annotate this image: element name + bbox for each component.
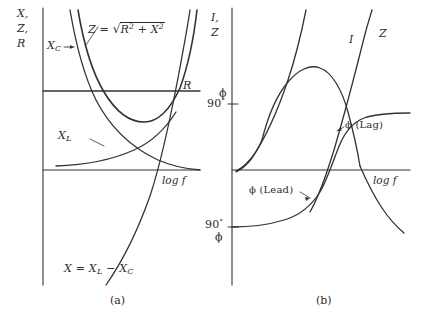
panel-a-y-axis-label: X, Z, R (17, 6, 28, 51)
panel-b-y-axis-label: I, Z (211, 10, 219, 40)
panel-a-label-XL: XL (58, 130, 72, 143)
panel-a-equation-Z-radicand: R2 + X2 (120, 22, 165, 36)
panel-a-y-axis-label-line-3: R (17, 36, 28, 51)
panel-a-equation-Z-radicand-X: X (151, 23, 159, 36)
panel-a-caption: (a) (110, 294, 125, 307)
panel-a-y-axis-label-line-2: Z, (17, 21, 28, 36)
panel-a-equation-X-net-lhs: X (64, 262, 72, 275)
panel-a-label-XL-subscript: L (66, 134, 72, 143)
panel-a-equation-Z-equals: = (100, 23, 109, 36)
panel-b-label-phi-lag: ϕ (Lag) (345, 120, 383, 131)
panel-b-tick-lower-degree-sign: ° (219, 218, 223, 226)
figure-container: X, Z, R XC XL R Z = √R2 + X2 log f X = X… (0, 0, 437, 316)
panel-b-curve-I (262, 67, 360, 166)
panel-a-label-XL-base: X (58, 129, 66, 142)
panel-b-label-phi-lead: ϕ (Lead) (249, 185, 293, 196)
panel-a-equation-Z-lhs: Z (88, 23, 96, 36)
panel-a-equation-X-net-XL-subscript: L (97, 267, 103, 276)
panel-b-tick-lower-value: 90 (205, 218, 219, 231)
panel-a-label-XC-base: X (47, 39, 55, 52)
panel-b-caption: (b) (316, 294, 332, 307)
panel-a-label-XC: XC (47, 40, 61, 53)
panel-a-y-axis-label-line-1: X, (17, 6, 28, 21)
panel-a-label-R: R (183, 80, 191, 92)
panel-a-label-XC-subscript: C (55, 44, 61, 53)
panel-b-tick-upper-label: 90° (207, 98, 225, 110)
panel-a-arrowhead-XC (70, 45, 74, 49)
panel-a-equation-Z-radicand-R: R (121, 23, 129, 36)
panel-a-equation-Z: Z = √R2 + X2 (88, 22, 165, 36)
panel-b-tick-lower-label: 90° (205, 219, 223, 231)
panel-b-tick-upper-degree-sign: ° (221, 97, 225, 105)
panel-b-tick-lower-phi-symbol: ϕ (215, 232, 223, 244)
panel-a-equation-X-net-XL: X (89, 262, 97, 275)
panel-b-label-Z: Z (379, 28, 387, 40)
panel-b-curve-Z-right (310, 10, 372, 212)
panel-a-equation-X-net: X = XL − XC (64, 263, 134, 276)
panel-a-equation-Z-radicand-plus: + (138, 23, 147, 36)
panel-b-y-axis-label-line-2: Z (211, 25, 219, 40)
panel-b-x-axis-label: log f (373, 174, 397, 186)
panel-b-tick-upper-value: 90 (207, 97, 221, 110)
panel-a-equation-Z-radicand-R-exponent: 2 (129, 22, 134, 31)
panel-a-curve-X-net (106, 10, 190, 285)
panel-a-equation-X-net-minus: − (106, 262, 115, 275)
panel-a-equation-X-net-XC-subscript: C (127, 267, 133, 276)
panel-b-curve-I-left-tail (236, 140, 262, 171)
panel-a-x-axis-label: log f (162, 174, 186, 186)
panel-a-equation-X-net-equals: = (76, 262, 85, 275)
panel-b-leader-phi-lead (300, 192, 310, 198)
panel-b-curve-Z-left (236, 10, 306, 172)
panel-b-arrowhead-phi-lag (337, 128, 342, 132)
panel-a-equation-Z-radicand-X-exponent: 2 (159, 22, 164, 31)
panel-b-label-I: I (349, 34, 354, 46)
panel-b-y-axis-label-line-1: I, (211, 10, 219, 25)
